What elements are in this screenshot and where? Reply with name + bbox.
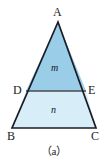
figure-caption: （a） xyxy=(0,146,108,157)
vertex-label-b: B xyxy=(7,130,15,142)
upper-triangle-region xyxy=(26,22,86,91)
geometry-figure: A D E B C m n （a） xyxy=(0,0,108,167)
vertex-label-a: A xyxy=(53,6,62,18)
vertex-label-e: E xyxy=(88,84,95,96)
region-label-lower: n xyxy=(51,105,56,115)
vertex-label-d: D xyxy=(13,84,22,96)
vertex-label-c: C xyxy=(91,130,99,142)
region-label-upper: m xyxy=(51,63,58,73)
